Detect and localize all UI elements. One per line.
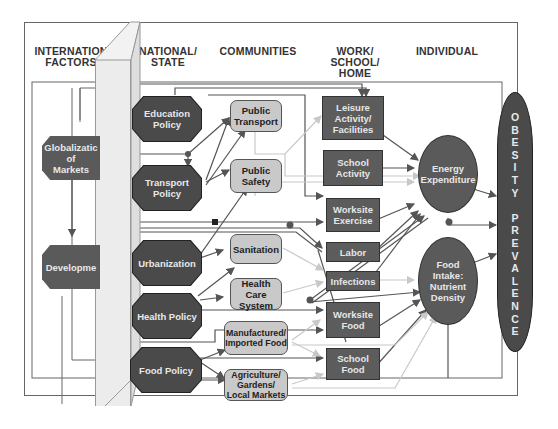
obesity-letter: T xyxy=(512,174,518,187)
obesity-letter: C xyxy=(511,313,519,326)
node-globalization[interactable]: Globalizatic of Markets xyxy=(42,136,100,180)
node-urbanization[interactable]: Urbanization xyxy=(133,241,201,285)
obesity-letter: O xyxy=(511,111,519,124)
obesity-letter: R xyxy=(511,224,519,237)
obesity-letter: E xyxy=(511,325,518,338)
node-public-transport[interactable]: Public Transport xyxy=(230,100,282,132)
node-transport-policy[interactable]: Transport Policy xyxy=(133,166,201,210)
obesity-letter: Y xyxy=(511,187,518,200)
node-infections[interactable]: Infections xyxy=(326,271,380,291)
node-public-safety[interactable]: Public Safety xyxy=(230,159,282,193)
node-obesity-prevalence[interactable]: OBESITY PREVALENCE xyxy=(497,92,533,352)
node-food-intake[interactable]: Food Intake: Nutrient Density xyxy=(418,237,478,325)
node-development[interactable]: Developme xyxy=(42,245,100,289)
node-education-policy[interactable]: Education Policy xyxy=(133,97,201,141)
obesity-letter: A xyxy=(511,262,519,275)
node-school-food[interactable]: School Food xyxy=(326,348,380,380)
obesity-letter: N xyxy=(511,300,519,313)
obesity-letter: E xyxy=(511,136,518,149)
node-agriculture-gardens-local-markets[interactable]: Agriculture/ Gardens/ Local Markets xyxy=(224,369,288,401)
obesity-letter xyxy=(514,199,517,212)
node-manufactured-imported-food[interactable]: Manufactured/ Imported Food xyxy=(224,321,288,355)
node-health-policy[interactable]: Health Policy xyxy=(133,294,201,338)
obesity-letter: I xyxy=(514,161,517,174)
node-leisure-activity[interactable]: Leisure Activity/ Facilities xyxy=(322,96,384,140)
obesity-letter: S xyxy=(511,149,518,162)
wall-bevel xyxy=(0,0,558,429)
obesity-prevalence-label: OBESITY PREVALENCE xyxy=(498,111,532,338)
node-energy-expenditure[interactable]: Energy Expenditure xyxy=(418,135,478,213)
node-health-care-system[interactable]: Health Care System xyxy=(230,278,282,310)
node-sanitation[interactable]: Sanitation xyxy=(230,234,282,264)
obesity-letter: P xyxy=(511,212,518,225)
node-food-policy[interactable]: Food Policy xyxy=(131,348,201,392)
node-worksite-food[interactable]: Worksite Food xyxy=(326,302,380,338)
obesity-letter: E xyxy=(511,287,518,300)
obesity-letter: V xyxy=(511,250,518,263)
obesity-letter: E xyxy=(511,237,518,250)
node-school-activity[interactable]: School Activity xyxy=(323,150,383,186)
node-worksite-exercise[interactable]: Worksite Exercise xyxy=(326,198,380,232)
obesity-letter: L xyxy=(512,275,518,288)
obesity-letter: B xyxy=(511,124,519,137)
node-labor[interactable]: Labor xyxy=(326,242,380,262)
